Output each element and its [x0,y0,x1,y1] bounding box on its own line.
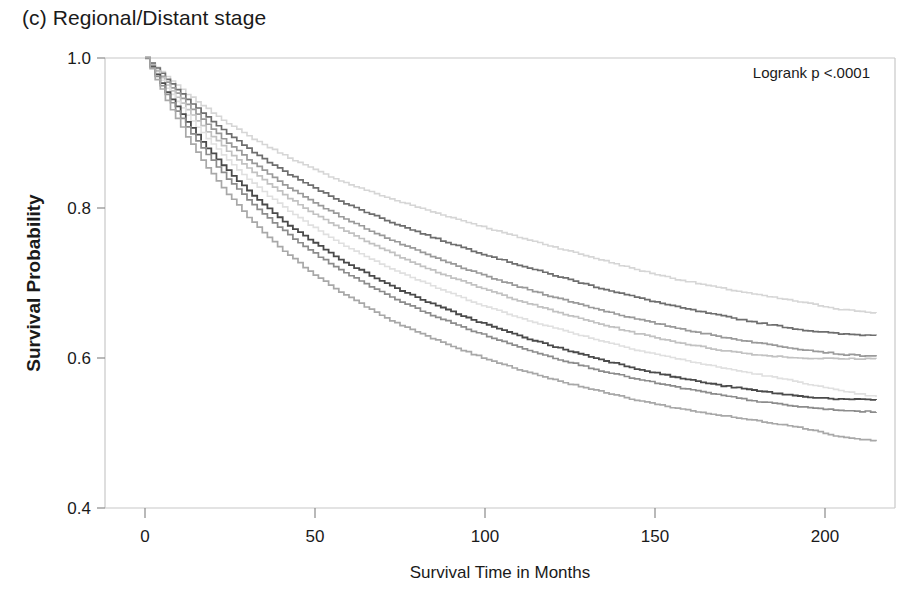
x-axis-title: Survival Time in Months [410,563,590,582]
y-tick-label: 0.6 [67,349,91,368]
x-tick-label: 200 [811,527,839,546]
y-axis-ticks [97,58,105,508]
survival-curve-6 [145,58,876,400]
survival-curve-1 [145,58,876,313]
survival-curve-7 [145,58,876,412]
x-tick-label: 50 [306,527,325,546]
x-axis-ticks [145,508,825,518]
y-tick-label: 0.4 [67,499,91,518]
survival-curves [145,57,876,441]
y-tick-label: 0.8 [67,199,91,218]
survival-plot: 1.0 0.8 0.6 0.4 0 50 100 150 200 Surviva… [0,0,909,609]
y-axis-tick-labels: 1.0 0.8 0.6 0.4 [67,49,91,518]
survival-curve-8 [145,57,876,441]
x-tick-label: 0 [140,527,149,546]
x-tick-label: 150 [641,527,669,546]
y-tick-label: 1.0 [67,49,91,68]
survival-curve-2 [145,58,876,336]
x-axis-tick-labels: 0 50 100 150 200 [140,527,839,546]
y-axis-title: Survival Probability [23,194,44,372]
x-tick-label: 100 [471,527,499,546]
survival-curve-5 [145,58,876,397]
figure-panel: (c) Regional/Distant stage 1.0 0.8 0.6 0… [0,0,909,609]
survival-curve-3 [145,58,876,356]
plot-frame [105,58,895,508]
logrank-annotation: Logrank p <.0001 [753,64,870,81]
